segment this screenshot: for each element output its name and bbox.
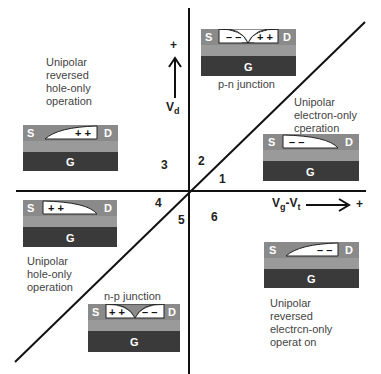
- label-line: Unipolar: [27, 255, 73, 268]
- region-2: 2: [198, 154, 205, 168]
- device-pn-junction: S D – – + + G: [201, 29, 296, 76]
- device-reversed-electron-only: S D – – G: [264, 242, 359, 288]
- svg-text:D: D: [345, 136, 353, 148]
- svg-text:S: S: [92, 306, 99, 318]
- label-line: Unipolar: [46, 56, 92, 69]
- label-line: electrcn-only: [270, 323, 332, 336]
- region-3: 3: [161, 158, 168, 172]
- svg-text:D: D: [104, 127, 112, 139]
- svg-text:G: G: [66, 156, 75, 168]
- label-np-junction: n-p junction: [104, 290, 161, 303]
- x-label-sub2: t: [298, 202, 301, 212]
- label-line: electron-only: [294, 109, 357, 122]
- svg-text:G: G: [306, 166, 315, 178]
- svg-text:S: S: [27, 127, 34, 139]
- svg-text:S: S: [205, 31, 212, 43]
- svg-text:+ +: + +: [257, 31, 273, 43]
- device-reversed-hole-only: S D + + G: [23, 125, 118, 171]
- x-axis-plus: +: [356, 197, 363, 211]
- x-label-mid: -V: [286, 196, 298, 210]
- device-np-junction: S D + + – – G: [88, 304, 180, 352]
- svg-text:– –: – –: [226, 31, 241, 43]
- x-axis-label: Vg-Vt: [272, 196, 301, 212]
- label-line: operation: [46, 95, 92, 108]
- svg-text:+ +: + +: [109, 306, 125, 318]
- y-axis-label: Vd: [166, 100, 180, 116]
- svg-text:D: D: [345, 244, 353, 256]
- label-line: Unipolar: [270, 297, 332, 310]
- label-line: reversed: [46, 69, 92, 82]
- svg-text:G: G: [307, 273, 316, 285]
- y-label-sub: d: [174, 106, 180, 116]
- svg-text:G: G: [66, 232, 75, 244]
- label-pn-junction: p-n junction: [218, 78, 275, 91]
- svg-text:G: G: [244, 61, 253, 73]
- svg-text:D: D: [104, 202, 112, 214]
- label-unipolar-reversed-electron-only: Unipolar reversed electrcn-only operat o…: [270, 297, 332, 349]
- svg-text:G: G: [130, 336, 139, 348]
- y-axis-plus: +: [170, 38, 177, 52]
- region-6: 6: [211, 210, 218, 224]
- svg-text:D: D: [168, 306, 176, 318]
- region-5: 5: [178, 213, 185, 227]
- region-1: 1: [219, 172, 226, 186]
- label-line: reversed: [270, 310, 332, 323]
- device-hole-only: S D + + G: [23, 200, 117, 247]
- x-label-main: V: [272, 196, 280, 210]
- device-electron-only: S D – – G: [263, 134, 359, 181]
- label-unipolar-electron-only: Unipolar electron-only cperation: [294, 96, 357, 135]
- label-line: operation: [27, 281, 73, 294]
- svg-text:– –: – –: [317, 244, 332, 256]
- label-line: hole-only: [46, 82, 92, 95]
- svg-text:S: S: [268, 136, 275, 148]
- y-label-main: V: [166, 100, 174, 114]
- region-4: 4: [155, 196, 162, 210]
- label-unipolar-reversed-hole-only: Unipolar reversed hole-only operation: [46, 56, 92, 108]
- label-line: operat on: [270, 336, 332, 349]
- svg-text:– –: – –: [142, 306, 157, 318]
- svg-text:+ +: + +: [48, 202, 64, 214]
- svg-text:– –: – –: [289, 136, 304, 148]
- svg-text:D: D: [283, 31, 291, 43]
- svg-text:+ +: + +: [75, 127, 91, 139]
- svg-text:S: S: [269, 244, 276, 256]
- label-line: hole-only: [27, 268, 73, 281]
- label-unipolar-hole-only: Unipolar hole-only operation: [27, 255, 73, 294]
- label-line: Unipolar: [294, 96, 357, 109]
- svg-text:S: S: [27, 202, 34, 214]
